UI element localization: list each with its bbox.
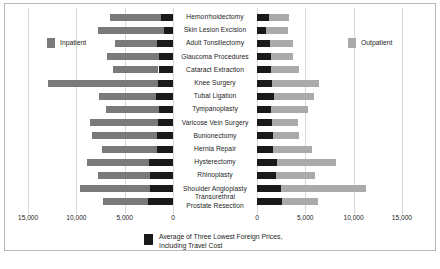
outpatient-bar-segment	[282, 198, 318, 205]
category-label: Tubal Ligation	[170, 92, 260, 100]
axis-tick-label: 10,000	[334, 214, 374, 221]
axis-tick-label: 15,000	[382, 214, 422, 221]
legend-swatch-outpatient-icon	[348, 38, 356, 48]
axis-tick-label: 5,000	[105, 214, 145, 221]
axis-tick-label: 0	[237, 214, 277, 221]
legend-foreign-average-label: Average of Three Lowest Foreign Prices, …	[159, 233, 282, 250]
outpatient-bar-segment	[274, 93, 314, 100]
category-label: TransurethralProstate Resection	[170, 193, 260, 209]
outpatient-bar-segment	[266, 27, 288, 34]
category-label: Varicose Vein Surgery	[170, 119, 260, 127]
outpatient-bar-segment	[273, 132, 298, 139]
category-label-line1: Transurethral	[195, 193, 235, 200]
legend-foreign-average-line2: Including Travel Cost	[159, 242, 222, 249]
legend-foreign-average-line1: Average of Three Lowest Foreign Prices,	[159, 233, 282, 240]
foreign-average-bar-segment	[257, 198, 282, 205]
outpatient-bar-segment	[272, 80, 318, 87]
outpatient-bar-segment	[273, 146, 312, 153]
outpatient-bar-segment	[271, 53, 293, 60]
category-label-line2: Prostate Resection	[186, 202, 243, 209]
outpatient-bar-segment	[281, 185, 366, 192]
category-label: Bunionectomy	[170, 132, 260, 140]
category-label: Knee Surgery	[170, 79, 260, 87]
legend-inpatient: Inpatient	[47, 38, 86, 48]
foreign-average-bar-segment	[257, 159, 277, 166]
foreign-average-bar-segment	[257, 185, 281, 192]
outpatient-bar-segment	[276, 172, 315, 179]
axis-tick-label: 0	[153, 214, 193, 221]
legend-inpatient-label: Inpatient	[60, 39, 86, 48]
legend-foreign-average: Average of Three Lowest Foreign Prices, …	[144, 233, 282, 250]
outpatient-bar-segment	[271, 106, 308, 113]
outpatient-bar-segment	[272, 119, 297, 126]
axis-tick-label: 15,000	[8, 214, 48, 221]
chart-figure: HemorrhoidectomySkin Lesion ExcisionAdul…	[0, 0, 440, 269]
category-label: Glaucoma Procedures	[170, 53, 260, 61]
category-label: Rhinoplasty	[170, 171, 260, 179]
category-label: Cataract Extraction	[170, 66, 260, 74]
outpatient-bar-segment	[271, 66, 298, 73]
legend-swatch-inpatient-icon	[47, 38, 55, 48]
outpatient-bar-segment	[277, 159, 336, 166]
category-label: Tympanoplasty	[170, 105, 260, 113]
category-label: Skin Lesion Excision	[170, 26, 260, 34]
category-label: Adult Tonsillectomy	[170, 39, 260, 47]
axis-tick-label: 10,000	[56, 214, 96, 221]
legend-outpatient-label: Outpatient	[361, 39, 392, 48]
category-label: Hernia Repair	[170, 145, 260, 153]
axis-tick-label: 5,000	[285, 214, 325, 221]
legend-swatch-foreign-average-icon	[144, 234, 153, 245]
legend-outpatient: Outpatient	[348, 38, 392, 48]
outpatient-bar-segment	[270, 40, 293, 47]
category-label: Hysterectomy	[170, 158, 260, 166]
outpatient-bar-segment	[269, 14, 289, 21]
category-label: Shoulder Angioplasty	[170, 185, 260, 193]
category-label: Hemorrhoidectomy	[170, 13, 260, 21]
